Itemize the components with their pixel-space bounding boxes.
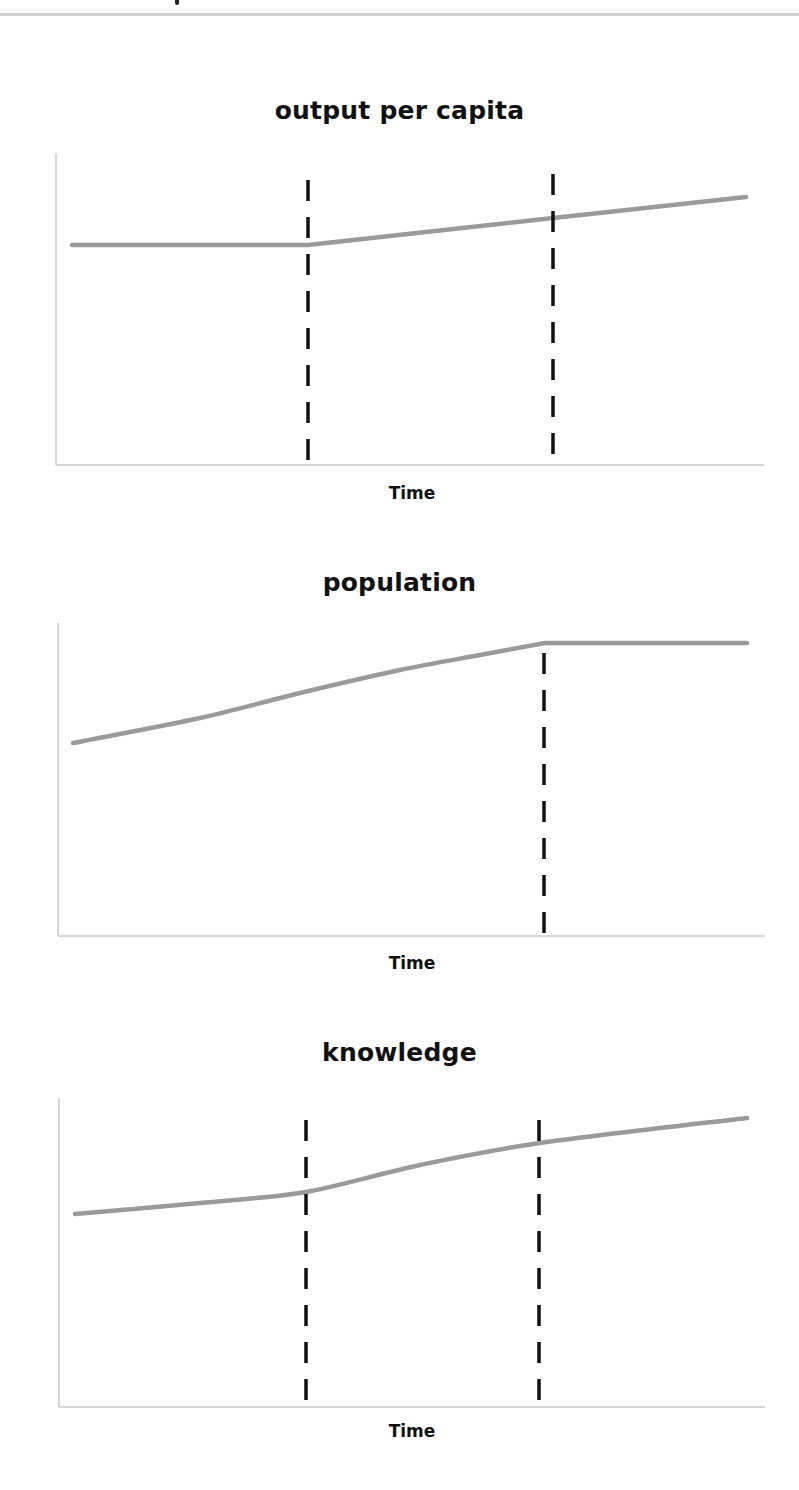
series-line bbox=[75, 1118, 747, 1214]
series-line bbox=[72, 197, 746, 245]
chart-population bbox=[58, 623, 765, 936]
series-line bbox=[73, 643, 747, 743]
charts-canvas bbox=[0, 0, 799, 1490]
chart-output-per-capita bbox=[56, 153, 764, 465]
chart-knowledge bbox=[59, 1098, 765, 1407]
